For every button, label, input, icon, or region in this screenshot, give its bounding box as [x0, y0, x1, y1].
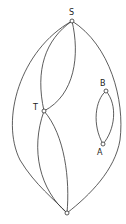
graph-svg: STBA	[0, 0, 126, 224]
node-label-a: A	[97, 148, 103, 157]
labels-group: STBA	[32, 8, 106, 157]
node-s	[70, 19, 74, 23]
edge-b-a	[103, 91, 114, 144]
edge-t-bottom	[44, 111, 68, 213]
node-label-s: S	[69, 8, 74, 17]
edge-s-t	[44, 21, 75, 111]
edge-s-t	[41, 21, 72, 111]
edge-b-a	[96, 91, 106, 144]
nodes-group	[42, 19, 108, 215]
node-label-b: B	[100, 79, 106, 88]
node-t	[42, 109, 46, 113]
edge-t-bottom	[38, 111, 67, 213]
node-a	[101, 142, 105, 146]
node-b	[104, 89, 108, 93]
node-bottom	[65, 211, 69, 215]
graph-diagram: STBA	[0, 0, 126, 224]
edges-group	[12, 21, 121, 213]
node-label-t: T	[32, 103, 38, 112]
